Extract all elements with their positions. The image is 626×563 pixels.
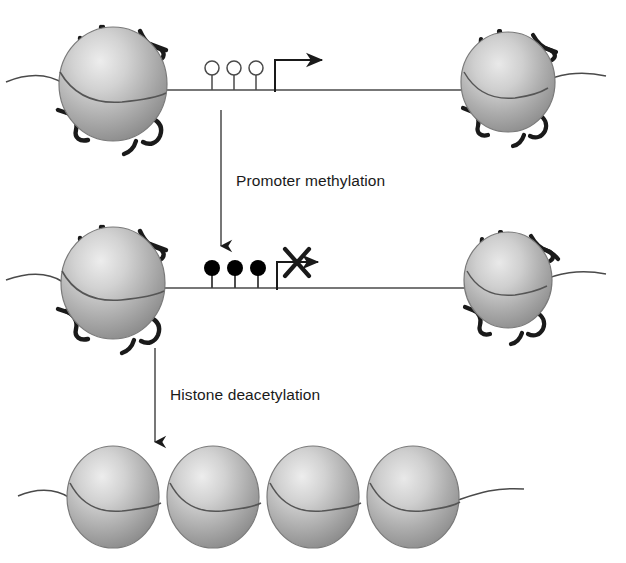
nucleosome	[58, 227, 166, 353]
diagram-canvas: Promoter methylation	[0, 0, 626, 563]
cpg-marker-group-methylated	[204, 260, 266, 288]
row-condensed-chromatin	[18, 446, 524, 548]
row-active-gene	[6, 27, 606, 154]
nucleosome	[461, 31, 556, 146]
nucleosome-core	[59, 27, 167, 141]
step-histone-deacetylation: Histone deacetylation	[155, 348, 320, 442]
nucleosome-core	[61, 227, 165, 339]
nucleosome	[58, 27, 167, 154]
nucleosome-core	[464, 232, 552, 328]
cpg-marker-filled	[250, 260, 266, 288]
row-methylated-gene	[6, 227, 606, 353]
cpg-marker-group-unmethylated	[205, 61, 263, 90]
cpg-marker-open	[249, 61, 263, 90]
nucleosome	[267, 446, 361, 548]
step-label-promoter-methylation: Promoter methylation	[236, 172, 385, 189]
step-promoter-methylation: Promoter methylation	[221, 110, 385, 246]
nucleosome	[167, 446, 261, 548]
cpg-marker-open	[205, 61, 219, 90]
nucleosome	[367, 446, 460, 548]
epigenetic-silencing-diagram: Promoter methylation	[0, 0, 626, 563]
nucleosome	[67, 446, 161, 548]
cpg-marker-filled	[227, 260, 243, 288]
cpg-marker-filled	[204, 260, 220, 288]
nucleosome	[464, 232, 558, 344]
cpg-marker-open	[227, 61, 241, 90]
step-label-histone-deacetylation: Histone deacetylation	[170, 386, 320, 403]
transcription-arrow-active	[275, 60, 322, 92]
nucleosome-core	[461, 32, 555, 132]
transcription-arrow-blocked	[277, 249, 318, 290]
